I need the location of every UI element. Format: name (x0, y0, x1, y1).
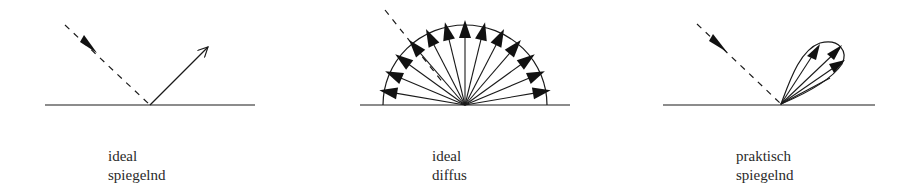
panel-ideal-specular (45, 25, 255, 105)
diffuse-arrowhead-icon (475, 22, 487, 41)
label-ideal-specular: ideal spiegelnd (108, 147, 166, 185)
label-line1: praktisch (736, 147, 794, 166)
label-practical-specular: praktisch spiegelnd (736, 147, 794, 185)
label-line1: ideal (108, 147, 166, 166)
diffuse-rays (379, 20, 550, 105)
label-line2: diffus (432, 166, 467, 185)
lobe-ray (781, 78, 830, 104)
diffuse-arrowhead-icon (505, 40, 521, 58)
label-line2: spiegelnd (736, 166, 794, 185)
incident-ray-dashed (65, 25, 150, 105)
diffuse-ray (394, 93, 465, 105)
label-ideal-diffuse: ideal diffus (432, 147, 467, 185)
diffuse-arrowhead-icon (395, 54, 413, 70)
diffuse-arrowhead-icon (409, 40, 425, 58)
diffuse-arrowhead-icon (443, 22, 455, 41)
label-line2: spiegelnd (108, 166, 166, 185)
label-line1: ideal (432, 147, 467, 166)
diffuse-arrowhead-icon (532, 87, 551, 99)
incident-arrowhead-icon (709, 34, 727, 52)
diffuse-arrowhead-icon (379, 87, 398, 99)
diffuse-arrowhead-icon (459, 20, 471, 38)
diffuse-ray (465, 93, 536, 105)
diffuse-arrowhead-icon (517, 54, 535, 70)
incident-arrowhead-icon (80, 35, 97, 53)
panel-ideal-diffuse (360, 10, 570, 105)
incident-ray-dashed (697, 24, 780, 103)
reflected-ray (150, 47, 208, 105)
panel-practical-specular (663, 24, 875, 105)
